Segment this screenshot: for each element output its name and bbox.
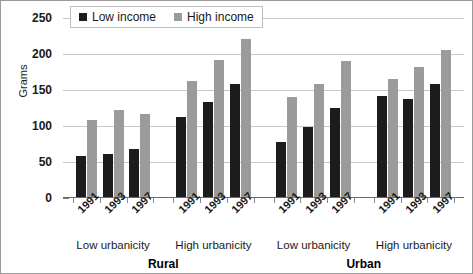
y-tick-label: 200 [6, 48, 52, 60]
bar-low-income [330, 108, 340, 198]
legend-swatch-icon [174, 13, 182, 21]
bar-high-income [214, 60, 224, 198]
x-tick-mark [173, 198, 174, 203]
bar-high-income [414, 67, 424, 198]
y-tick-mark [63, 198, 69, 199]
y-tick-label: 150 [6, 84, 52, 96]
urbanicity-group-label: Low urbanicity [63, 239, 163, 251]
bar-high-income [114, 110, 124, 198]
bar-low-income [403, 99, 413, 198]
bar-high-income [388, 79, 398, 198]
bar-high-income [87, 120, 97, 198]
legend-entry: High income [174, 10, 254, 24]
y-tick-label: 250 [6, 12, 52, 24]
legend-label: High income [187, 10, 254, 24]
bar-low-income [430, 84, 440, 198]
y-tick-label: 0 [6, 192, 52, 204]
x-tick-mark [274, 198, 275, 203]
chart-legend: Low incomeHigh income [70, 6, 263, 28]
legend-swatch-icon [79, 13, 87, 21]
bar-high-income [140, 114, 150, 198]
bar-low-income [129, 149, 139, 198]
bar-low-income [276, 142, 286, 198]
bar-low-income [377, 96, 387, 198]
gridline [63, 90, 464, 91]
gridline [63, 54, 464, 55]
x-tick-mark [73, 198, 74, 203]
urbanicity-group-label: Low urbanicity [264, 239, 364, 251]
bar-low-income [176, 117, 186, 198]
legend-label: Low income [92, 10, 156, 24]
urbanicity-group-label: High urbanicity [364, 239, 464, 251]
bar-low-income [230, 84, 240, 198]
urbanicity-group-label: High urbanicity [163, 239, 263, 251]
bar-low-income [76, 156, 86, 198]
plot-area [63, 18, 464, 198]
x-tick-mark [374, 198, 375, 203]
bar-high-income [314, 84, 324, 198]
bar-high-income [241, 39, 251, 198]
y-tick-label: 50 [6, 156, 52, 168]
grouped-bar-chart: Grams 050100150200250 199119931997199119… [0, 0, 473, 274]
bar-low-income [203, 102, 213, 198]
bar-high-income [341, 61, 351, 198]
region-group-label: Urban [264, 257, 465, 271]
bar-high-income [441, 50, 451, 198]
y-tick-label: 100 [6, 120, 52, 132]
bar-low-income [303, 127, 313, 198]
region-group-label: Rural [63, 257, 264, 271]
bar-low-income [103, 154, 113, 198]
legend-entry: Low income [79, 10, 156, 24]
bar-high-income [187, 81, 197, 198]
bar-high-income [287, 97, 297, 198]
